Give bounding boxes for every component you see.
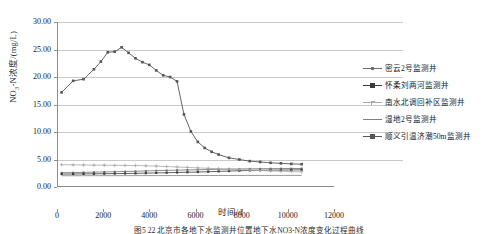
figure-caption: 图5 22 北京市各地下水监测井位置地下水NO3-N浓度变化过程曲线 [0, 224, 498, 234]
data-point-marker [165, 165, 169, 169]
legend-item-1[interactable]: 怀柔刘两河监测井 [363, 77, 471, 94]
y-tick-label: 0.00 [7, 183, 51, 191]
legend-swatch-icon [363, 132, 382, 141]
data-point-marker [113, 50, 116, 53]
data-point-marker [72, 173, 74, 175]
data-point-marker [134, 172, 136, 174]
data-point-marker [248, 160, 251, 163]
data-point-marker [144, 164, 148, 168]
data-point-marker [114, 172, 116, 174]
data-point-marker [113, 164, 117, 168]
data-point-marker [100, 60, 103, 63]
data-point-marker [155, 172, 157, 174]
data-point-marker [300, 163, 303, 166]
legend-item-0[interactable]: 密云2号监测井 [363, 60, 471, 77]
series-layer [57, 22, 403, 187]
data-point-marker [60, 91, 63, 94]
data-point-marker [103, 173, 105, 175]
data-point-marker [124, 172, 126, 174]
y-tick-label: 5.00 [7, 156, 51, 164]
y-tick-label: 10.00 [7, 128, 51, 136]
data-point-marker [166, 169, 168, 171]
data-point-marker [93, 173, 95, 175]
data-point-marker [227, 167, 231, 171]
data-point-marker [93, 68, 96, 71]
data-point-marker [162, 74, 165, 77]
legend-item-3[interactable]: 湿地2号监测井 [363, 111, 471, 128]
y-tick-label: 15.00 [7, 101, 51, 109]
data-point-marker [82, 163, 86, 167]
data-point-marker [134, 164, 138, 168]
data-point-marker [238, 158, 241, 161]
data-point-marker [141, 61, 144, 64]
data-point-marker [176, 171, 178, 173]
data-point-marker [106, 51, 109, 54]
legend-swatch-icon [363, 81, 382, 90]
data-point-marker [176, 80, 179, 83]
data-point-marker [155, 69, 158, 72]
figure-container: NO3-N浓度/(mg/L) 0.005.0010.0015.0020.0025… [0, 0, 498, 234]
data-point-marker [196, 166, 200, 170]
data-point-marker [258, 169, 262, 173]
data-point-marker [190, 130, 193, 133]
y-tick-mark [54, 187, 57, 188]
data-point-marker [155, 170, 157, 172]
y-tick-label: 20.00 [7, 73, 51, 81]
legend-label: 南水北调回补区监测井 [385, 99, 465, 107]
data-point-marker [169, 76, 172, 79]
data-point-marker [154, 164, 158, 168]
data-point-marker [197, 171, 199, 173]
series-line [62, 165, 302, 172]
data-point-marker [92, 163, 96, 167]
data-point-marker [82, 173, 84, 175]
legend-swatch-icon [363, 98, 382, 107]
legend-label: 顺义引温济潮50m监测井 [385, 133, 471, 141]
legend-swatch-icon [363, 115, 382, 124]
data-point-marker [186, 171, 188, 173]
x-axis-title: 时间/d [57, 205, 403, 217]
data-point-marker [217, 167, 221, 171]
data-point-marker [228, 157, 231, 160]
data-point-marker [60, 163, 64, 167]
data-point-marker [290, 163, 293, 166]
data-point-marker [259, 161, 262, 164]
data-point-marker [72, 80, 75, 83]
data-point-marker [176, 169, 178, 171]
y-tick-label: 30.00 [7, 18, 51, 26]
data-point-marker [145, 170, 147, 172]
data-point-marker [217, 153, 220, 156]
data-point-marker [148, 64, 151, 67]
data-point-marker [280, 162, 283, 165]
data-point-marker [103, 163, 107, 167]
data-point-marker [114, 171, 116, 173]
data-point-marker [300, 170, 304, 174]
data-point-marker [124, 171, 126, 173]
data-point-marker [120, 46, 123, 49]
data-point-marker [71, 163, 75, 167]
data-point-marker [82, 78, 85, 81]
y-axis-title-sub: 3 [13, 87, 20, 90]
data-point-marker [135, 170, 137, 172]
series-4 [60, 46, 303, 165]
legend-swatch-icon [363, 64, 382, 73]
data-point-marker [207, 171, 209, 173]
legend-label: 湿地2号监测井 [385, 116, 437, 124]
data-point-marker [134, 57, 137, 60]
data-point-marker [186, 169, 188, 171]
data-point-marker [166, 172, 168, 174]
legend-item-2[interactable]: 南水北调回补区监测井 [363, 94, 471, 111]
data-point-marker [203, 147, 206, 150]
data-point-marker [61, 173, 63, 175]
legend-label: 怀柔刘两河监测井 [385, 82, 449, 90]
data-point-marker [210, 151, 213, 154]
data-point-marker [269, 169, 273, 173]
data-point-marker [183, 113, 186, 116]
legend-item-4[interactable]: 顺义引温济潮50m监测井 [363, 128, 471, 145]
data-point-marker [197, 141, 200, 144]
legend: 密云2号监测井怀柔刘两河监测井南水北调回补区监测井湿地2号监测井顺义引温济潮50… [363, 60, 471, 145]
series-line [62, 47, 302, 164]
data-point-marker [123, 164, 127, 168]
data-point-marker [127, 52, 130, 55]
data-point-marker [145, 172, 147, 174]
data-point-marker [175, 165, 179, 169]
